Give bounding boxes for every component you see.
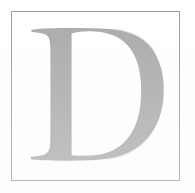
glyph-area bbox=[12, 12, 179, 180]
letter-d-path bbox=[31, 28, 164, 161]
letter-d-glyph bbox=[12, 12, 179, 180]
scanned-page bbox=[0, 0, 195, 193]
letter-d-outline bbox=[31, 28, 164, 161]
